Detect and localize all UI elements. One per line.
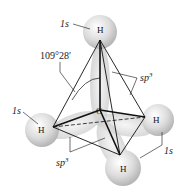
atom-left-h: H [38, 125, 45, 135]
atom-top-h: H [97, 25, 104, 35]
atom-bottom-h: H [120, 164, 127, 174]
atom-right-h: H [153, 115, 160, 125]
methane-tetrahedron-diagram: H C H H H [0, 0, 186, 189]
atom-center-c: C [96, 106, 102, 116]
label-bond-angle: 109°28′ [40, 51, 71, 61]
label-right-1s: 1s [164, 146, 173, 156]
label-left-1s: 1s [12, 106, 21, 116]
sp3-upper-exp: 3 [149, 71, 153, 79]
sp3-lower-base: sp [56, 157, 65, 168]
sp3-upper-base: sp [140, 72, 149, 83]
label-sp3-upper: sp3 [140, 72, 152, 83]
label-sp3-lower: sp3 [56, 157, 68, 168]
label-top-1s: 1s [60, 19, 69, 29]
sp3-lower-exp: 3 [65, 156, 69, 164]
